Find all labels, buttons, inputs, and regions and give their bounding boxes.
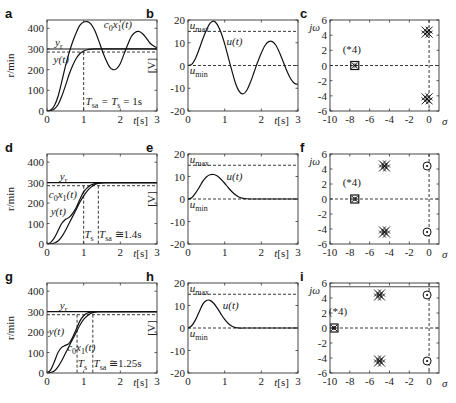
x-tick-label: 0 xyxy=(185,113,191,125)
y-tick-label: 200 xyxy=(28,64,45,76)
multiplicity-annotation: (*4) xyxy=(343,176,362,189)
panel-h: h-20-10010200123[V]t[s]umaxuminu(t) xyxy=(145,269,301,388)
x-tick-label: 0 xyxy=(44,113,50,125)
y-tick-label: 4 xyxy=(322,29,328,41)
curve-label: umin xyxy=(190,327,208,342)
y-tick-label: 20 xyxy=(174,277,186,289)
y-tick-label: -4 xyxy=(318,223,328,235)
y-tick-label: 0 xyxy=(180,193,186,205)
panel-a: a01002003004000123r/mint[s]c0x1(t)yry(t)… xyxy=(4,6,160,126)
x-tick-label: 3 xyxy=(295,113,301,125)
x-tick-label: 2 xyxy=(118,375,124,387)
x-tick-label: 1 xyxy=(222,113,228,125)
y-tick-label: 400 xyxy=(28,156,45,168)
series-ut xyxy=(188,174,298,199)
y-tick-label: 400 xyxy=(28,285,45,297)
y-tick-label: -20 xyxy=(170,105,185,117)
series-ut xyxy=(188,300,298,328)
y-axis-label: [V] xyxy=(145,320,157,335)
y-tick-label: 20 xyxy=(174,14,186,26)
y-tick-label: 4 xyxy=(322,292,328,304)
y-axis-label: jω xyxy=(307,21,320,33)
y-tick-label: -10 xyxy=(170,82,185,94)
x-axis-label: t[s] xyxy=(274,376,289,388)
y-tick-label: 200 xyxy=(28,326,45,338)
y-axis-label: [V] xyxy=(145,191,157,206)
x-tick-label: 3 xyxy=(295,246,301,258)
x-tick-label: 0 xyxy=(185,246,191,258)
plot-area xyxy=(188,294,298,328)
panel-letter: b xyxy=(146,6,154,21)
y-tick-label: 2 xyxy=(322,307,328,319)
curve-label: c0x1(t) xyxy=(49,188,78,203)
x-tick-label: 1 xyxy=(81,113,87,125)
y-tick-label: -10 xyxy=(170,216,185,228)
y-tick-label: 300 xyxy=(28,43,45,55)
x-tick-label: -2 xyxy=(405,246,414,258)
curve-label: umax xyxy=(190,282,209,297)
y-tick-label: 2 xyxy=(322,44,328,56)
curve-label: y(t) xyxy=(53,53,70,66)
curve-label: y(t) xyxy=(48,325,65,338)
y-axis-label: jω xyxy=(307,155,320,167)
panel-g: g01002003004000123r/mint[s]yry(t)c0x1(t)… xyxy=(4,269,160,388)
curve-label: Tsa = Ts = 1s xyxy=(86,95,142,110)
y-tick-label: 300 xyxy=(28,306,45,318)
panel-f: f-6-4-20246-10-8-6-4-20jωσ(*4) xyxy=(300,140,448,260)
x-tick-label: 2 xyxy=(259,375,265,387)
panel-c: c-6-4-20246-10-8-6-4-20jωσ(*4) xyxy=(300,6,448,127)
y-tick-label: 0 xyxy=(180,322,186,334)
y-tick-label: -4 xyxy=(318,90,328,102)
x-tick-label: 2 xyxy=(259,113,265,125)
x-axis-label: t[s] xyxy=(274,247,289,259)
y-tick-label: 6 xyxy=(322,277,328,289)
multiplicity-annotation: (*4) xyxy=(329,305,348,318)
panel-letter: c xyxy=(300,6,307,21)
x-axis-label: t[s] xyxy=(133,376,148,388)
y-axis-label: r/min xyxy=(4,316,16,340)
curve-label: Ts xyxy=(84,228,93,243)
curve-label: y(t) xyxy=(50,205,67,218)
panel-letter: a xyxy=(5,6,13,21)
y-tick-label: 0 xyxy=(180,60,186,72)
y-axis-label: [V] xyxy=(145,58,157,73)
panel-letter: g xyxy=(5,269,13,284)
x-tick-label: -6 xyxy=(365,246,375,258)
y-tick-label: -2 xyxy=(318,75,327,87)
x-tick-label: -6 xyxy=(365,113,375,125)
x-tick-label: 1 xyxy=(222,246,228,258)
curve-label: u(t) xyxy=(227,35,243,48)
y-tick-label: -10 xyxy=(170,345,185,357)
dot-icon xyxy=(426,231,428,233)
x-tick-label: -10 xyxy=(323,375,338,387)
panel-e: e-20-10010200123[V]t[s]umaxuminu(t) xyxy=(145,140,301,259)
panel-letter: i xyxy=(300,269,304,284)
y-axis-label: r/min xyxy=(4,53,16,77)
y-tick-label: 2 xyxy=(322,178,328,190)
curve-label: c0x1(t) xyxy=(104,18,133,33)
curve-label: c0x1(t) xyxy=(67,341,96,356)
x-tick-label: 0 xyxy=(185,375,191,387)
y-tick-label: 6 xyxy=(322,14,328,26)
x-axis-label: σ xyxy=(442,115,448,127)
y-axis-label: jω xyxy=(307,284,320,296)
y-tick-label: 10 xyxy=(174,37,186,49)
curve-label: u(t) xyxy=(227,170,243,183)
x-tick-label: 0 xyxy=(426,246,432,258)
curve-label: umin xyxy=(190,64,208,79)
curve-label: Tsa ≅1.4s xyxy=(99,228,142,243)
y-tick-label: 0 xyxy=(322,60,328,72)
y-tick-label: 10 xyxy=(174,171,186,183)
panel-letter: h xyxy=(146,269,154,284)
x-axis-label: t[s] xyxy=(133,247,148,259)
y-tick-label: -4 xyxy=(318,352,328,364)
x-tick-label: -8 xyxy=(345,113,355,125)
y-tick-label: -20 xyxy=(170,367,185,379)
x-tick-label: 3 xyxy=(154,246,160,258)
x-tick-label: 0 xyxy=(426,375,432,387)
x-tick-label: -8 xyxy=(345,246,355,258)
x-axis-label: t[s] xyxy=(274,114,289,126)
panel-letter: d xyxy=(5,140,13,155)
y-axis-label: r/min xyxy=(4,187,16,211)
y-tick-label: -20 xyxy=(170,238,185,250)
